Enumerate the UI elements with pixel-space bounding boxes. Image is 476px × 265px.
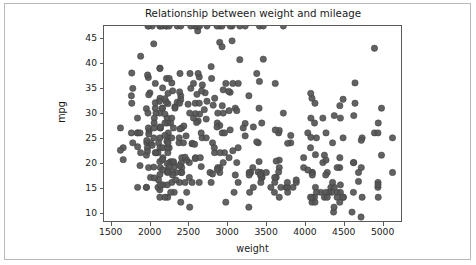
y-axis-label: mpg [56,101,67,123]
x-tick-mark [150,222,151,226]
x-axis-label: weight [103,243,402,254]
x-tick-label: 3500 [246,227,286,237]
x-tick-mark [266,222,267,226]
x-tick-mark [383,222,384,226]
x-tick-label: 4000 [285,227,325,237]
x-axis-ticks: 15002000250030003500400045005000 [0,0,476,265]
x-tick-mark [188,222,189,226]
figure-canvas: Relationship between weight and mileage … [0,0,476,265]
x-tick-label: 2000 [130,227,170,237]
x-tick-label: 4500 [324,227,364,237]
x-tick-mark [111,222,112,226]
x-tick-mark [344,222,345,226]
x-tick-label: 2500 [168,227,208,237]
x-tick-label: 3000 [207,227,247,237]
x-tick-mark [227,222,228,226]
x-tick-label: 5000 [363,227,403,237]
x-tick-mark [305,222,306,226]
x-tick-label: 1500 [91,227,131,237]
